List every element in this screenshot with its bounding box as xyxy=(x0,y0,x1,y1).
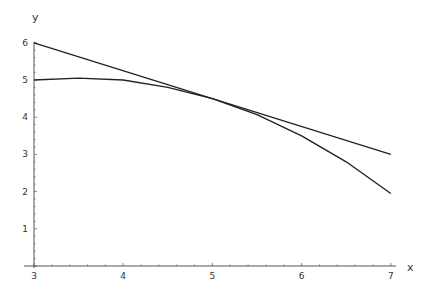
curve-line xyxy=(34,78,391,193)
y-tick-label: 2 xyxy=(22,187,28,197)
y-tick-label: 1 xyxy=(22,224,28,234)
x-tick-label: 5 xyxy=(210,271,216,281)
x-tick-label: 7 xyxy=(388,271,394,281)
chart: 34567123456 x y xyxy=(0,0,431,296)
x-tick-label: 3 xyxy=(31,271,37,281)
tangent-line xyxy=(34,43,391,155)
y-tick-label: 3 xyxy=(22,149,28,159)
axes: 34567123456 xyxy=(22,38,396,281)
y-tick-label: 4 xyxy=(22,112,28,122)
plot-series xyxy=(34,43,391,194)
y-tick-label: 6 xyxy=(22,38,28,48)
y-axis-label: y xyxy=(32,11,39,24)
x-tick-label: 6 xyxy=(299,271,305,281)
y-tick-label: 5 xyxy=(22,75,28,85)
x-axis-label: x xyxy=(407,261,414,274)
x-tick-label: 4 xyxy=(120,271,126,281)
